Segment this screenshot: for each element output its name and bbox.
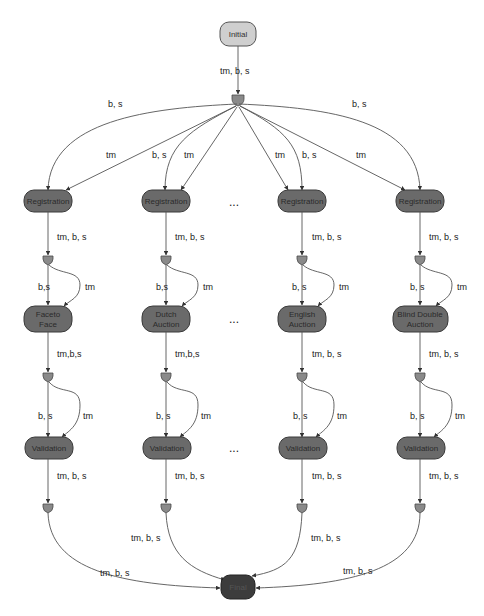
registration-label: Registration bbox=[145, 197, 188, 206]
edge-label-val-out: tm, b, s bbox=[312, 471, 342, 481]
gate-icon bbox=[43, 256, 53, 265]
validation-label: Validation bbox=[404, 444, 439, 453]
gate-icon bbox=[297, 256, 307, 265]
ellipsis-auction: ... bbox=[229, 312, 239, 326]
initial-node: Initial bbox=[220, 22, 256, 46]
gate-icon bbox=[43, 504, 53, 513]
auction-label-line1: Dutch bbox=[156, 310, 177, 319]
fanout-label-col1-bs: b, s bbox=[108, 99, 123, 109]
fanout-label-col2-bs: b, s bbox=[152, 150, 167, 160]
edge-label-auc-out: tm,b,s bbox=[175, 349, 200, 359]
edge-label-auc-bs: b,s bbox=[38, 282, 51, 292]
edge-gate-to-final bbox=[166, 513, 225, 580]
edge-fork-col3-bs bbox=[240, 106, 302, 190]
edge-label-val-tm: tm bbox=[201, 411, 211, 421]
edge-label-val-bs: b, s bbox=[38, 411, 53, 421]
validation-label: Validation bbox=[32, 444, 67, 453]
column-face-to-face: Registration tm, b, s b,s tm Faceto Face… bbox=[24, 190, 220, 588]
edge-label-final: tm, b, s bbox=[343, 566, 373, 576]
gate-icon bbox=[415, 256, 425, 265]
edge-label-reg-out: tm, b, s bbox=[57, 232, 87, 242]
edge-gate-to-auction-tm bbox=[49, 265, 80, 306]
edge-label-val-out: tm, b, s bbox=[175, 471, 205, 481]
final-label: Final bbox=[229, 583, 247, 592]
gate-icon bbox=[43, 373, 53, 382]
gate-icon bbox=[297, 373, 307, 382]
edge-label-val-bs: b, s bbox=[156, 411, 171, 421]
auction-label-line2: Face bbox=[39, 320, 57, 329]
edge-label-auc-out: tm,b,s bbox=[57, 349, 82, 359]
gate-icon bbox=[161, 504, 171, 513]
edge-gate-to-validation-tm bbox=[421, 382, 452, 437]
registration-label: Registration bbox=[281, 197, 324, 206]
gate-icon bbox=[161, 256, 171, 265]
edge-label-val-bs: b, s bbox=[410, 411, 425, 421]
edge-gate-to-validation-tm bbox=[167, 382, 198, 437]
gate-icon bbox=[297, 504, 307, 513]
auction-label-line2: Auction bbox=[153, 320, 180, 329]
gate-icon bbox=[415, 373, 425, 382]
auction-label-line1: Blind Double bbox=[397, 310, 443, 319]
edge-label-final: tm, b, s bbox=[100, 568, 130, 578]
registration-label: Registration bbox=[399, 197, 442, 206]
validation-label: Validation bbox=[286, 444, 321, 453]
edge-label-start: tm, b, s bbox=[220, 66, 250, 76]
edge-label-final: tm, b, s bbox=[311, 533, 341, 543]
edge-gate-to-final bbox=[48, 513, 220, 588]
edge-label-auc-bs: b, s bbox=[292, 282, 307, 292]
edge-gate-to-validation-tm bbox=[49, 382, 80, 437]
ellipsis-registration: ... bbox=[229, 195, 239, 209]
validation-label: Validation bbox=[150, 444, 185, 453]
column-english-auction: Registration tm, b, s b, s tm English Au… bbox=[252, 190, 349, 576]
fanout-label-col4-tm: tm bbox=[356, 150, 366, 160]
edge-label-val-bs: b, s bbox=[293, 411, 308, 421]
fanout-label-col2-tm: tm bbox=[184, 150, 194, 160]
auction-label-line1: Faceto bbox=[36, 310, 61, 319]
initial-label: Initial bbox=[229, 30, 248, 39]
gate-icon bbox=[415, 504, 425, 513]
auction-label-line2: Auction bbox=[289, 320, 316, 329]
edge-label-val-tm: tm bbox=[455, 411, 465, 421]
edge-label-val-out: tm, b, s bbox=[429, 471, 459, 481]
edge-label-val-out: tm, b, s bbox=[57, 471, 87, 481]
fanout-label-col3-tm: tm bbox=[275, 150, 285, 160]
edge-label-auc-bs: b, s bbox=[410, 282, 425, 292]
edge-fork-col4-bs bbox=[239, 104, 420, 190]
edge-label-reg-out: tm, b, s bbox=[429, 232, 459, 242]
column-blind-double-auction: Registration tm, b, s b, s tm Blind Doub… bbox=[256, 190, 467, 588]
edge-fork-col2-bs bbox=[165, 106, 236, 190]
edge-label-auc-tm: tm bbox=[339, 282, 349, 292]
edge-label-reg-out: tm, b, s bbox=[312, 232, 342, 242]
edge-label-reg-out: tm, b, s bbox=[175, 232, 205, 242]
ellipsis-validation: ... bbox=[229, 441, 239, 455]
edge-label-auc-tm: tm bbox=[85, 282, 95, 292]
edge-label-auc-tm: tm bbox=[457, 282, 467, 292]
edge-label-auc-out: tm, b, s bbox=[312, 349, 342, 359]
edge-gate-to-final bbox=[252, 513, 302, 576]
column-dutch-auction: Registration tm, b, s b,s tm Dutch Aucti… bbox=[131, 190, 225, 580]
edge-gate-to-validation-tm bbox=[303, 382, 334, 437]
edge-gate-to-auction-tm bbox=[167, 265, 198, 306]
edge-label-val-tm: tm bbox=[337, 411, 347, 421]
auction-process-diagram: Initial tm, b, s b, s tm b, s tm tm b, s… bbox=[0, 0, 484, 616]
edge-fork-col1-bs bbox=[48, 104, 237, 190]
registration-label: Registration bbox=[27, 197, 70, 206]
gate-icon bbox=[161, 373, 171, 382]
edge-gate-to-auction-tm bbox=[303, 265, 334, 306]
fanout-label-col3-bs: b, s bbox=[302, 150, 317, 160]
edge-gate-to-auction-tm bbox=[421, 265, 452, 306]
edge-label-val-tm: tm bbox=[83, 411, 93, 421]
edge-label-final: tm, b, s bbox=[131, 533, 161, 543]
fanout-label-col4-bs: b, s bbox=[352, 99, 367, 109]
fanout-label-col1-tm: tm bbox=[106, 150, 116, 160]
edge-label-auc-bs: b,s bbox=[156, 282, 169, 292]
final-node: Final bbox=[221, 575, 255, 599]
edge-fork-col1-tm bbox=[66, 106, 236, 190]
edge-label-auc-tm: tm bbox=[203, 282, 213, 292]
auction-label-line2: Auction bbox=[407, 320, 434, 329]
auction-label-line1: English bbox=[289, 310, 315, 319]
edge-label-auc-out: tm, b, s bbox=[429, 349, 459, 359]
edge-gate-to-final bbox=[256, 513, 420, 588]
edge-fork-col4-tm bbox=[240, 106, 405, 190]
